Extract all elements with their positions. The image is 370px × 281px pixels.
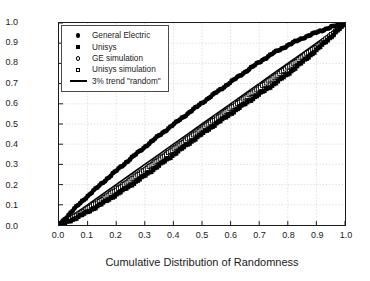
filled-circle-icon: [67, 33, 89, 38]
chart-figure: Fraction of Inventors with at Least this…: [0, 0, 370, 281]
legend-item: Unisys: [67, 41, 161, 52]
y-tick-label: 0.9: [0, 38, 18, 47]
legend-item: GE simulation: [67, 53, 161, 64]
legend-item-label: GE simulation: [89, 54, 143, 63]
open-square-icon: [67, 68, 89, 72]
line-icon: [67, 80, 89, 82]
x-tick-label: 1.0: [326, 231, 366, 240]
y-tick-label: 0.7: [0, 79, 18, 88]
y-tick-label: 0.3: [0, 160, 18, 169]
y-tick-label: 0.1: [0, 201, 18, 210]
legend-item-label: Unisys: [89, 43, 117, 52]
legend-item-label: General Electric: [89, 31, 150, 40]
legend-item: General Electric: [67, 30, 161, 41]
y-tick-label: 0.0: [0, 222, 18, 231]
y-tick-label: 0.2: [0, 181, 18, 190]
legend-item-label: 3% trend "random": [89, 77, 161, 86]
legend-item: Unisys simulation: [67, 64, 161, 75]
y-tick-label: 1.0: [0, 18, 18, 27]
x-axis-title: Cumulative Distribution of Randomness: [58, 256, 346, 268]
chart-legend: General ElectricUnisysGE simulationUnisy…: [61, 25, 169, 92]
open-circle-icon: [67, 56, 89, 60]
y-tick-label: 0.4: [0, 140, 18, 149]
y-tick-label: 0.5: [0, 120, 18, 129]
filled-square-icon: [67, 45, 89, 49]
y-tick-label: 0.8: [0, 58, 18, 67]
y-tick-label: 0.6: [0, 99, 18, 108]
legend-item: 3% trend "random": [67, 76, 161, 87]
legend-item-label: Unisys simulation: [89, 65, 156, 74]
